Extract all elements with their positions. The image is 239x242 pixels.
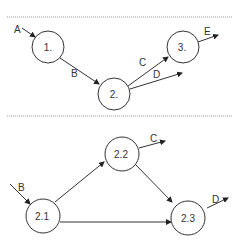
edge-label-c-out: C [150,133,157,144]
svg-text:2.2: 2.2 [114,149,128,160]
top-level-diagram: A B C D E 1. 2. 3. [14,24,218,110]
svg-text:2.: 2. [110,89,118,100]
edge-21-22 [55,162,104,202]
edge-a [22,28,35,37]
edge-label-c: C [139,57,146,68]
edge-b [60,58,99,84]
node-2-1: 2.1 [26,199,60,233]
edge-c [128,57,168,86]
node-3: 3. [167,31,199,63]
edge-label-a: A [14,24,21,35]
node-1: 1. [32,31,64,63]
svg-text:3.: 3. [178,42,186,53]
edge-label-e: E [204,26,211,37]
process-decomposition-diagram: A B C D E 1. 2. 3. B C [0,0,239,242]
edge-label-d: D [153,69,160,80]
svg-text:2.3: 2.3 [181,213,195,224]
edge-label-d-out: D [212,194,219,205]
edge-label-b-in: B [18,182,25,193]
node-2-2: 2.2 [105,137,139,171]
edge-22-23 [135,164,172,202]
svg-text:2.1: 2.1 [35,211,49,222]
node-2-3: 2.3 [171,201,205,235]
decomposition-diagram: B C D 2.1 2.2 2.3 [10,133,228,235]
edge-label-b: B [71,68,78,79]
node-2: 2. [98,78,130,110]
svg-text:1.: 1. [44,42,52,53]
